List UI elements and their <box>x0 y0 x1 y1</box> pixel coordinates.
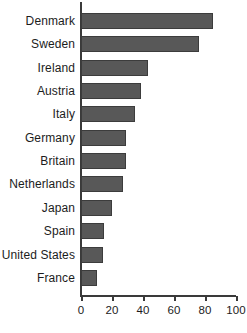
bar <box>81 200 112 216</box>
bar <box>81 153 126 169</box>
x-tick-mark <box>174 296 176 301</box>
category-label: France <box>37 271 75 285</box>
bar <box>81 13 213 29</box>
x-tick-mark <box>236 296 238 301</box>
x-tick-label: 0 <box>78 304 85 316</box>
bar-chart: DenmarkSwedenIrelandAustriaItalyGermanyB… <box>0 0 247 333</box>
x-tick-mark <box>205 296 207 301</box>
category-label: Netherlands <box>9 177 75 191</box>
bar <box>81 270 97 286</box>
category-label: Sweden <box>31 37 75 51</box>
bar <box>81 106 135 122</box>
bar <box>81 130 126 146</box>
bar <box>81 36 199 52</box>
category-label: Austria <box>37 84 75 98</box>
x-tick-label: 20 <box>106 304 119 316</box>
bar <box>81 247 103 263</box>
x-tick-mark <box>143 296 145 301</box>
bar <box>81 176 123 192</box>
x-tick-label: 80 <box>199 304 212 316</box>
plot-area: DenmarkSwedenIrelandAustriaItalyGermanyB… <box>0 0 247 333</box>
x-tick-label: 60 <box>168 304 181 316</box>
category-label: Ireland <box>38 61 75 75</box>
category-label: Spain <box>44 224 75 238</box>
category-label: Britain <box>40 154 75 168</box>
category-label: Denmark <box>26 14 75 28</box>
category-label: Japan <box>42 201 75 215</box>
x-tick-mark <box>81 296 83 301</box>
bar <box>81 60 148 76</box>
x-tick-label: 100 <box>226 304 246 316</box>
x-axis-spine <box>80 295 236 297</box>
bar <box>81 223 104 239</box>
category-label: Germany <box>25 131 75 145</box>
x-tick-mark <box>112 296 114 301</box>
bar <box>81 83 141 99</box>
category-label: Italy <box>52 107 75 121</box>
category-label: United States <box>2 248 75 262</box>
x-tick-label: 40 <box>137 304 150 316</box>
